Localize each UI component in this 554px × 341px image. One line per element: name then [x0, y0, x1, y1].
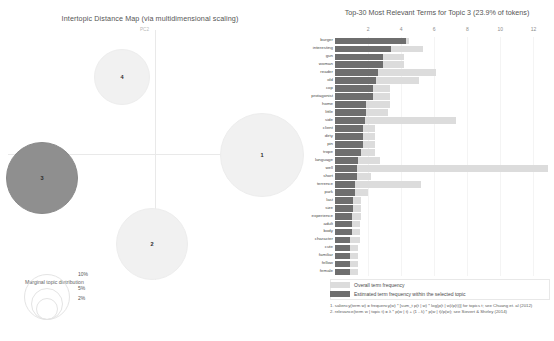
term-label[interactable]: adult — [323, 221, 333, 228]
term-row[interactable]: well — [335, 164, 550, 172]
topic-frequency-bar — [335, 229, 352, 236]
topic-frequency-bar — [335, 149, 361, 156]
term-row[interactable]: home — [335, 101, 550, 109]
x-tick-10: 10 — [498, 26, 504, 32]
term-row[interactable]: dirty — [335, 133, 550, 141]
term-row[interactable]: language — [335, 157, 550, 165]
bar-rows: burgerinterestinggunwomanreaderoldcoppro… — [335, 37, 550, 276]
topic-frequency-bar — [335, 117, 365, 124]
term-label[interactable]: character — [315, 236, 333, 243]
term-row[interactable]: old — [335, 77, 550, 85]
term-row[interactable]: experience — [335, 212, 550, 220]
term-label[interactable]: cop — [326, 85, 333, 92]
term-label[interactable]: cute — [325, 244, 333, 251]
topic-frequency-bar — [335, 261, 350, 268]
term-label[interactable]: gun — [326, 53, 333, 60]
term-row[interactable]: familiar — [335, 252, 550, 260]
term-row[interactable]: little — [335, 109, 550, 117]
overall-swatch — [330, 282, 350, 288]
term-row[interactable]: cop — [335, 85, 550, 93]
term-row[interactable]: interesting — [335, 45, 550, 53]
term-label[interactable]: woman — [319, 61, 333, 68]
term-row[interactable]: short — [335, 172, 550, 180]
term-label[interactable]: side — [325, 117, 333, 124]
term-row[interactable]: client — [335, 125, 550, 133]
term-label[interactable]: old — [327, 77, 333, 84]
term-label[interactable]: protagonist — [311, 93, 333, 100]
topic-bubble-label-2: 2 — [117, 209, 187, 279]
term-label[interactable]: little — [325, 109, 333, 116]
term-row[interactable]: cute — [335, 244, 550, 252]
topic-bubble-4[interactable]: 4 — [94, 49, 150, 105]
term-row[interactable]: female — [335, 268, 550, 276]
topic-frequency-bar — [335, 69, 378, 76]
topic-bubble-1[interactable]: 1 — [220, 113, 304, 197]
term-row[interactable]: reader — [335, 69, 550, 77]
term-label[interactable]: terrence — [317, 181, 333, 188]
topic-frequency-bar — [335, 165, 357, 172]
term-label[interactable]: female — [320, 268, 333, 275]
term-row[interactable]: fellow — [335, 260, 550, 268]
term-label[interactable]: size — [325, 205, 333, 212]
topic-frequency-bar — [335, 245, 350, 252]
term-row[interactable]: terrence — [335, 180, 550, 188]
topic-frequency-bar — [335, 46, 391, 53]
topic-legend-label: Estimated term frequency within the sele… — [354, 290, 465, 298]
term-row[interactable]: protagonist — [335, 93, 550, 101]
term-label[interactable]: dirty — [325, 133, 333, 140]
marginal-size-label-2: 10% — [78, 271, 88, 277]
x-tick-6: 6 — [433, 26, 436, 32]
topic-frequency-bar — [335, 181, 355, 188]
legend-row-topic: Estimated term frequency within the sele… — [330, 290, 548, 298]
term-label[interactable]: familiar — [319, 252, 333, 259]
frequency-legend: Overall term frequency Estimated term fr… — [330, 281, 548, 299]
term-label[interactable]: language — [315, 157, 333, 164]
term-row[interactable]: burger — [335, 37, 550, 45]
term-row[interactable]: woman — [335, 61, 550, 69]
topic-frequency-bar — [335, 133, 363, 140]
footnote-relevance: 2. relevance(term w | topic t) = λ * p(w… — [330, 309, 552, 315]
topic-bubble-label-4: 4 — [95, 50, 149, 104]
term-row[interactable]: body — [335, 228, 550, 236]
term-label[interactable]: trope — [323, 149, 333, 156]
term-row[interactable]: last — [335, 196, 550, 204]
term-row[interactable]: pin — [335, 141, 550, 149]
term-label[interactable]: body — [323, 228, 333, 235]
topic-frequency-bar — [335, 109, 366, 116]
term-barchart: 24681012 burgerinterestinggunwomanreader… — [335, 26, 550, 276]
term-label[interactable]: pin — [327, 141, 333, 148]
pyldavis-visualization: Intertopic Distance Map (via multidimens… — [0, 0, 554, 341]
term-label[interactable]: experience — [312, 213, 333, 220]
topic-frequency-bar — [335, 213, 352, 220]
top-terms-panel: Top-30 Most Relevant Terms for Topic 3 (… — [300, 0, 554, 341]
term-row[interactable]: size — [335, 204, 550, 212]
term-label[interactable]: park — [324, 189, 333, 196]
pc2-axis-label: PC2 — [140, 27, 149, 32]
marginal-size-label-0: 2% — [78, 295, 85, 301]
topic-bubble-3[interactable]: 3 — [6, 142, 78, 214]
topic-bubble-2[interactable]: 2 — [116, 208, 188, 280]
term-label[interactable]: short — [323, 173, 333, 180]
topic-frequency-bar — [335, 101, 366, 108]
term-row[interactable]: gun — [335, 53, 550, 61]
term-label[interactable]: fellow — [322, 260, 333, 267]
x-tick-4: 4 — [400, 26, 403, 32]
topic-frequency-bar — [335, 253, 350, 260]
term-label[interactable]: home — [322, 101, 333, 108]
term-row[interactable]: park — [335, 188, 550, 196]
topic-frequency-bar — [335, 197, 353, 204]
term-label[interactable]: well — [325, 165, 333, 172]
term-label[interactable]: client — [323, 125, 333, 132]
term-label[interactable]: last — [326, 197, 333, 204]
term-row[interactable]: side — [335, 117, 550, 125]
intertopic-map-title: Intertopic Distance Map (via multidimens… — [0, 14, 300, 23]
term-row[interactable]: character — [335, 236, 550, 244]
term-label[interactable]: burger — [320, 37, 333, 44]
term-row[interactable]: trope — [335, 149, 550, 157]
term-label[interactable]: interesting — [313, 45, 333, 52]
topic-frequency-bar — [335, 157, 358, 164]
term-label[interactable]: reader — [320, 69, 333, 76]
overall-legend-label: Overall term frequency — [354, 281, 405, 289]
term-row[interactable]: adult — [335, 220, 550, 228]
marginal-size-circle-2 — [24, 274, 70, 320]
